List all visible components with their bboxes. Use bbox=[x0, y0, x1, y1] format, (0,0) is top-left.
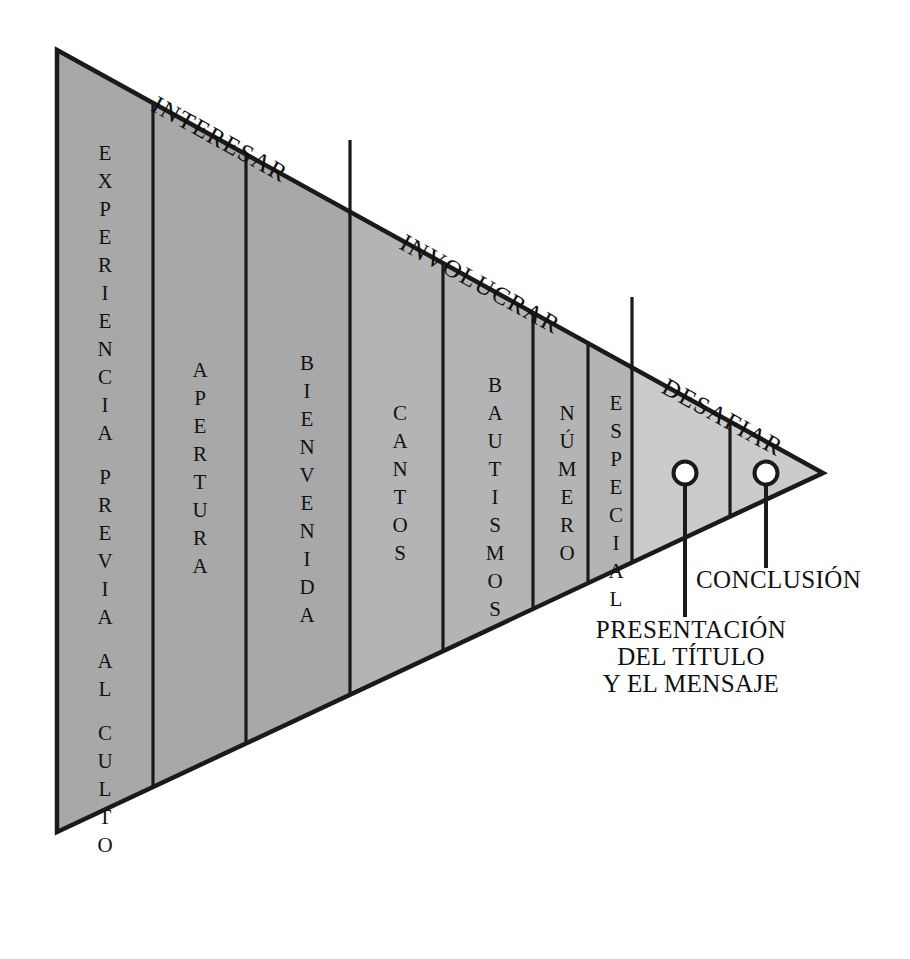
callout-texts: CONCLUSIÓN PRESENTACIÓN DEL TÍTULO Y EL … bbox=[596, 566, 861, 697]
callout-label-conclusion: CONCLUSIÓN bbox=[696, 566, 861, 593]
callout-label-presentacion-line1: PRESENTACIÓN bbox=[596, 616, 786, 643]
callout-marker-conclusion bbox=[755, 462, 778, 485]
phase-fill-interesar bbox=[40, 30, 350, 860]
callout-label-presentacion-line3: Y EL MENSAJE bbox=[603, 670, 780, 697]
phase-fill-involucrar bbox=[350, 30, 632, 860]
funnel-svg: INTERESAR INVOLUCRAR DESAFIAR CONCLUSIÓN… bbox=[0, 0, 910, 959]
funnel-diagram: INTERESAR INVOLUCRAR DESAFIAR CONCLUSIÓN… bbox=[0, 0, 910, 959]
callout-marker-presentacion bbox=[674, 462, 697, 485]
callout-label-presentacion-line2: DEL TÍTULO bbox=[617, 643, 765, 670]
